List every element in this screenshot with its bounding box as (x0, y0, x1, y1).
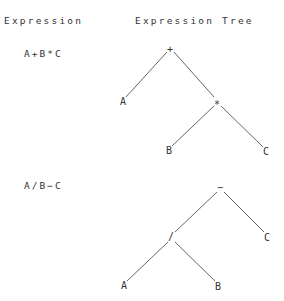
edge-plus-star (174, 52, 214, 97)
expression-trees: + A * B C − / C A B (0, 0, 284, 301)
tree-1: + A * B C (120, 44, 269, 157)
edge-minus-c (224, 192, 264, 232)
edge-slash-b (175, 242, 215, 281)
node-minus: − (217, 182, 223, 193)
node-b: B (215, 281, 221, 292)
node-a: A (121, 280, 127, 291)
node-c: C (263, 146, 269, 157)
node-a: A (120, 96, 126, 107)
node-slash: / (168, 231, 174, 242)
edge-star-b (172, 106, 214, 146)
node-plus: + (167, 44, 173, 55)
node-b: B (166, 145, 172, 156)
edge-star-c (221, 106, 263, 147)
edge-minus-slash (175, 192, 217, 232)
edge-slash-a (127, 242, 168, 281)
node-star: * (214, 99, 220, 110)
edge-plus-a (126, 52, 167, 97)
node-c: C (264, 232, 270, 243)
tree-2: − / C A B (121, 182, 270, 292)
